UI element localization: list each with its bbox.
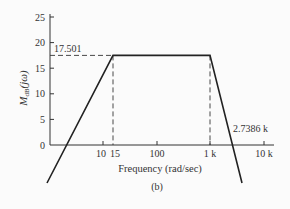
svg-text:MdB(jω): MdB(jω) (17, 70, 31, 107)
svg-text:25: 25 (35, 12, 45, 23)
figure-caption: (b) (151, 181, 163, 193)
x-axis-label: Frequency (rad/sec) (118, 163, 202, 175)
svg-text:5: 5 (40, 114, 45, 125)
svg-text:10 k: 10 k (255, 148, 273, 159)
svg-text:20: 20 (35, 37, 45, 48)
svg-text:10: 10 (96, 148, 106, 159)
y-axis-label: MdB(jω) (17, 70, 31, 107)
svg-text:15: 15 (35, 63, 45, 74)
y-ticks (50, 17, 54, 119)
svg-text:10: 10 (35, 88, 45, 99)
svg-text:100: 100 (150, 148, 165, 159)
x-tick-labels: 10 15 100 1 k 10 k (96, 148, 273, 159)
svg-text:1 k: 1 k (204, 148, 217, 159)
annotation-level: 17.501 (54, 43, 82, 54)
annotation-crossing: 2.7386 k (233, 123, 268, 134)
svg-text:0: 0 (40, 140, 45, 151)
y-tick-labels: 0 5 10 15 20 25 (35, 12, 45, 151)
svg-text:15: 15 (110, 148, 120, 159)
bode-chart: 0 5 10 15 20 25 10 15 100 1 k 10 k 17.50… (0, 0, 290, 209)
x-ticks (103, 141, 264, 145)
